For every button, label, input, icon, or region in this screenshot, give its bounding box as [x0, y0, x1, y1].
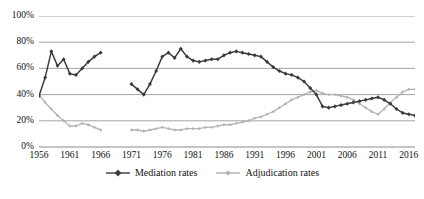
y-tick-60: 60%	[0, 63, 34, 73]
data-point	[228, 51, 232, 55]
legend-label-mediation: Mediation rates	[135, 168, 197, 178]
data-point	[197, 60, 201, 64]
legend-swatch-adjudication	[215, 168, 241, 178]
data-point	[235, 122, 238, 125]
legend-label-adjudication: Adjudication rates	[245, 168, 319, 178]
data-point	[376, 95, 380, 99]
data-point	[247, 52, 251, 56]
plot-area	[39, 16, 415, 147]
series-mediation-rates	[39, 47, 415, 118]
data-point	[364, 98, 368, 102]
data-point	[210, 126, 213, 129]
data-point	[234, 49, 238, 53]
data-point	[179, 128, 182, 131]
chart-legend: Mediation rates Adjudication rates	[0, 168, 424, 178]
data-point	[173, 128, 176, 131]
y-tick-40: 40%	[0, 90, 34, 100]
data-point	[413, 113, 415, 117]
data-point	[192, 127, 195, 130]
data-point	[198, 127, 201, 130]
data-point	[290, 73, 294, 77]
data-point	[155, 127, 158, 130]
data-point	[333, 104, 337, 108]
data-point	[43, 75, 47, 79]
data-point	[413, 88, 415, 91]
data-point	[210, 57, 214, 61]
legend-item-mediation: Mediation rates	[105, 168, 197, 178]
line-chart: 0%20%40%60%80%100% 195619611966197119761…	[0, 0, 424, 199]
data-point	[339, 103, 343, 107]
x-tick-2016: 2016	[389, 151, 424, 161]
data-point	[229, 123, 232, 126]
data-point	[204, 126, 207, 129]
data-point	[185, 127, 188, 130]
data-point	[370, 96, 374, 100]
y-tick-20: 20%	[0, 116, 34, 126]
data-point	[203, 58, 207, 62]
data-point	[327, 93, 330, 96]
data-point	[136, 128, 139, 131]
data-point	[142, 130, 145, 133]
data-point	[148, 128, 151, 131]
data-point	[216, 124, 219, 127]
data-point	[130, 128, 133, 131]
data-point	[345, 102, 349, 106]
y-tick-100: 100%	[0, 11, 34, 21]
data-point	[222, 123, 225, 126]
data-point	[240, 51, 244, 55]
data-point	[253, 53, 257, 57]
data-point	[407, 112, 411, 116]
data-point	[284, 72, 288, 76]
data-point	[327, 106, 331, 110]
data-point	[167, 127, 170, 130]
data-point	[161, 126, 164, 129]
legend-item-adjudication: Adjudication rates	[215, 168, 319, 178]
plot-svg	[39, 16, 415, 149]
legend-swatch-mediation	[105, 168, 131, 178]
y-tick-80: 80%	[0, 37, 34, 47]
data-point	[333, 93, 336, 96]
